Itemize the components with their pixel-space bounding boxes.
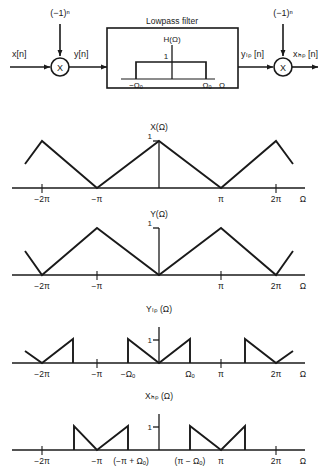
chart-modulated-spectrum: Y(Ω) 1 −2π −π π 2π Ω [12, 209, 306, 291]
x-axis-label: Ω [300, 369, 306, 379]
xtick-label-5: 2π [271, 369, 282, 379]
spectrum-segment-left [25, 339, 73, 363]
filtered-label: yₗₚ [n] [241, 49, 264, 59]
spectrum-segment-right [245, 339, 293, 363]
xtick-label-2: π [218, 456, 224, 466]
xtick-label-1: −π [92, 281, 103, 291]
x-axis-label: Ω [300, 281, 306, 291]
amplitude-label: 1 [148, 219, 153, 228]
filter-gain-label: 1 [164, 52, 169, 61]
xtick-label-3: Ωₒ [185, 369, 195, 379]
chart-title: Y(Ω) [150, 209, 168, 219]
xtick-label-1: −π [92, 194, 103, 204]
amplitude-label: 1 [148, 423, 153, 432]
chart-highpass-output-spectrum: Xₕₚ (Ω) 1 −2π −π (−π + Ωₒ) (π − Ωₒ) π 2π… [12, 391, 306, 466]
xtick-label-2: −Ωₒ [121, 369, 136, 379]
chart-title: X(Ω) [150, 122, 168, 132]
filter-left-cutoff-label: −Ωₒ [129, 81, 143, 90]
block-diagram: x[n] X (−1)ⁿ y[n] Lowpass filter H(Ω) 1 … [10, 8, 318, 90]
xtick-label-2: π [218, 281, 224, 291]
xtick-label-2: π [218, 194, 224, 204]
chart-title: Yₗₚ (Ω) [146, 304, 172, 314]
chart-lowpass-output-spectrum: Yₗₚ (Ω) 1 −2π −π −Ωₒ Ωₒ π 2π Ω [12, 304, 306, 379]
filter-title: Lowpass filter [146, 16, 198, 26]
intermediate-label: y[n] [74, 49, 89, 59]
signal-processing-figure: x[n] X (−1)ⁿ y[n] Lowpass filter H(Ω) 1 … [0, 0, 323, 475]
modulator-1-carrier-label: (−1)ⁿ [50, 8, 70, 18]
xtick-label-3: 2π [271, 456, 282, 466]
filter-right-cutoff-label: Ωₒ [203, 81, 212, 90]
output-label: xₕₚ [n] [293, 49, 318, 59]
chart-title: Xₕₚ (Ω) [145, 391, 173, 401]
modulator-2-symbol: X [280, 63, 286, 73]
xtick-label-0: −2π [34, 281, 50, 291]
modulator-2-carrier-label: (−1)ⁿ [273, 8, 293, 18]
filter-axis-label: Ω [219, 81, 225, 90]
cutoff-label-left: (−π + Ωₒ) [113, 456, 149, 466]
x-axis-label: Ω [300, 194, 306, 204]
xtick-label-0: −2π [34, 369, 50, 379]
cutoff-label-right: (π − Ωₒ) [175, 456, 206, 466]
xtick-label-0: −2π [34, 456, 50, 466]
spectrum-segment-left [74, 426, 128, 450]
spectrum-segment-right [190, 426, 245, 450]
xtick-label-4: π [218, 369, 224, 379]
amplitude-label: 1 [148, 336, 153, 345]
modulator-1-symbol: X [57, 63, 63, 73]
xtick-label-3: 2π [271, 194, 282, 204]
xtick-label-0: −2π [34, 194, 50, 204]
chart-input-spectrum: X(Ω) 1 −2π −π π 2π Ω [12, 122, 306, 204]
figure-root: x[n] X (−1)ⁿ y[n] Lowpass filter H(Ω) 1 … [0, 0, 323, 475]
input-label: x[n] [12, 49, 27, 59]
xtick-label-1: −π [92, 456, 103, 466]
xtick-label-3: 2π [271, 281, 282, 291]
xtick-label-1: −π [92, 369, 103, 379]
x-axis-label: Ω [300, 456, 306, 466]
filter-response-label: H(Ω) [163, 35, 180, 44]
amplitude-label: 1 [148, 132, 153, 141]
